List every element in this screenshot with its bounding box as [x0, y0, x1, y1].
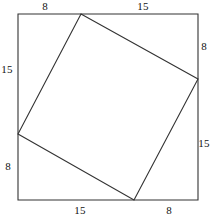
geometry-figure: 8 15 8 15 15 8 15 8 [0, 0, 212, 217]
dimension-label-bottom-left: 15 [74, 205, 85, 216]
dimension-label-left-bottom: 8 [5, 161, 11, 172]
dimension-label-right-bottom: 15 [198, 138, 209, 149]
dimension-label-bottom-right: 8 [166, 205, 172, 216]
dimension-label-left-top: 15 [1, 64, 12, 75]
dimension-label-top-right: 15 [137, 1, 148, 12]
figure-canvas [0, 0, 212, 217]
dimension-label-right-top: 8 [201, 41, 207, 52]
dimension-label-top-left: 8 [42, 1, 48, 12]
